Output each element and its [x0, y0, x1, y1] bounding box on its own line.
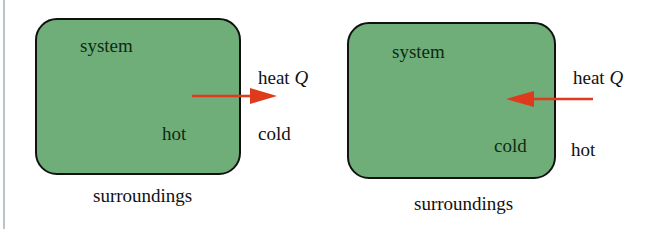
arrow-left-icon — [0, 0, 667, 229]
heat-flow-diagram: system hot heat Q cold surroundings syst… — [0, 0, 667, 229]
